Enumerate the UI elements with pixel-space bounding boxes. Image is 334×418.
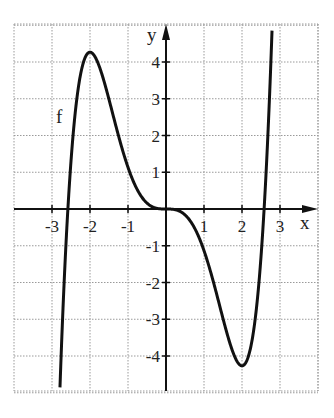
x-tick-label: 2 — [238, 217, 247, 236]
y-tick-label: 3 — [152, 90, 161, 109]
x-tick-label: -1 — [121, 217, 135, 236]
function-plot: -3-2-1123-4-3-2-11234 f x y — [0, 0, 334, 418]
y-tick-label: -3 — [146, 310, 160, 329]
x-tick-label: 3 — [276, 217, 285, 236]
y-tick-label: -2 — [146, 274, 160, 293]
x-axis-label: x — [300, 212, 310, 233]
y-axis-arrow-icon — [162, 24, 170, 40]
x-tick-label: 1 — [200, 217, 209, 236]
x-tick-label: -3 — [45, 217, 59, 236]
y-axis-label: y — [147, 24, 157, 45]
x-tick-label: -2 — [83, 217, 97, 236]
y-tick-label: -1 — [146, 237, 160, 256]
curve-label: f — [56, 106, 63, 127]
y-tick-label: 4 — [152, 53, 161, 72]
y-tick-label: 1 — [152, 163, 161, 182]
y-tick-label: 2 — [152, 127, 161, 146]
y-tick-label: -4 — [146, 347, 161, 366]
